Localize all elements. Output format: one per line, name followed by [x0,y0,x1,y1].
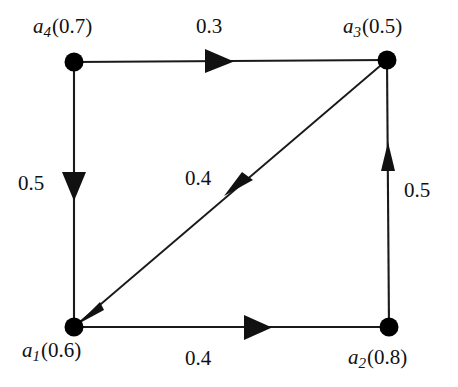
node-a1-subscript: 1 [33,348,41,364]
node-a1-name: a [22,338,33,362]
node-a3[interactable] [378,51,397,70]
node-a2-subscript: 2 [359,355,367,371]
edge-weight-a2-a3: 0.5 [404,180,430,201]
node-a4-subscript: 4 [44,24,52,40]
graph-diagram: a4(0.7) a3(0.5) a1(0.6) a2(0.8) 0.3 0.5 … [0,0,458,387]
arrowhead-a2-a3-icon [381,142,395,171]
node-a2-value: (0.8) [367,345,407,369]
node-a1[interactable] [65,318,84,337]
arrowhead-a4-a1-icon [62,172,86,201]
node-a3-value: (0.5) [362,14,402,38]
node-label-a3: a3(0.5) [343,16,402,40]
arrowhead-a4-a3-icon [205,49,234,73]
edge-line-a2-a3 [387,60,389,327]
edge-line-a3-a1 [74,60,387,327]
node-a2-name: a [348,345,359,369]
edge-weight-a4-a3: 0.3 [196,16,222,37]
edge-weight-a1-a2: 0.4 [185,348,211,369]
edge-weight-a4-a1: 0.5 [18,173,44,194]
node-a4-name: a [33,14,44,38]
graph-canvas [0,0,458,387]
node-a2[interactable] [380,318,399,337]
edge-lines [74,60,389,327]
node-a3-subscript: 3 [354,24,362,40]
arrowhead-a3-a1-terminal-icon [78,302,104,324]
node-a4[interactable] [65,53,84,72]
arrowhead-a1-a2-icon [244,315,272,340]
node-a3-name: a [343,14,354,38]
node-a1-value: (0.6) [41,338,81,362]
node-label-a4: a4(0.7) [33,16,92,40]
node-a4-value: (0.7) [52,14,92,38]
node-label-a1: a1(0.6) [22,340,81,364]
edge-weight-a3-a1: 0.4 [185,168,211,189]
arrowhead-a3-a1-icon [224,172,253,196]
node-label-a2: a2(0.8) [348,347,407,371]
